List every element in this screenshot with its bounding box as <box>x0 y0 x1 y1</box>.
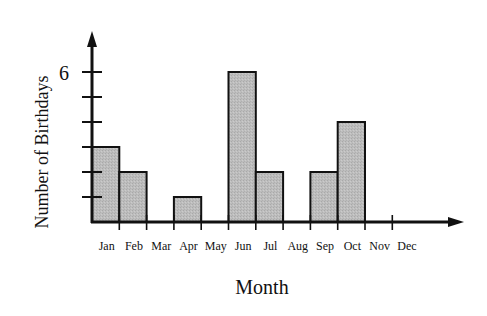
bar-sep <box>310 172 337 222</box>
x-tick-label-dec: Dec <box>397 239 416 253</box>
y-axis-arrow-icon <box>87 31 97 47</box>
bar-feb <box>119 172 146 222</box>
birthday-bar-chart: JanFebMarAprMayJunJulAugSepOctNovDec6Mon… <box>0 0 487 316</box>
x-axis-title: Month <box>235 276 288 298</box>
x-tick-label-jun: Jun <box>235 239 252 253</box>
x-tick-label-feb: Feb <box>125 239 143 253</box>
y-tick-label: 6 <box>59 62 69 84</box>
bar-oct <box>338 122 365 222</box>
x-tick-label-jan: Jan <box>99 239 115 253</box>
x-tick-label-jul: Jul <box>263 239 278 253</box>
y-axis-title: Number of Birthdays <box>32 76 52 229</box>
x-tick-label-oct: Oct <box>344 239 362 253</box>
x-tick-label-apr: Apr <box>179 239 198 253</box>
bars-group <box>92 72 365 222</box>
x-axis-arrow-icon <box>448 217 464 227</box>
x-tick-label-mar: Mar <box>151 239 171 253</box>
bar-jul <box>256 172 283 222</box>
bar-jan <box>92 147 119 222</box>
x-tick-label-sep: Sep <box>316 239 334 253</box>
x-tick-label-may: May <box>205 239 227 253</box>
x-tick-label-aug: Aug <box>287 239 308 253</box>
bar-jun <box>229 72 256 222</box>
x-tick-label-nov: Nov <box>369 239 390 253</box>
bar-apr <box>174 197 201 222</box>
